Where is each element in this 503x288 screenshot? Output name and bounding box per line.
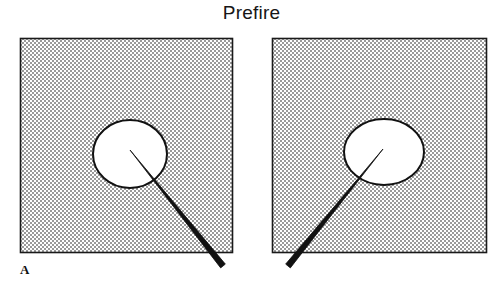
right-tissue-panel bbox=[273, 39, 487, 268]
panel-label-a: A bbox=[20, 262, 29, 278]
figure-canvas bbox=[0, 0, 503, 288]
figure-root: Prefire A bbox=[0, 0, 503, 288]
right-target-circle bbox=[344, 119, 424, 185]
left-tissue-panel bbox=[21, 39, 233, 268]
left-target-circle bbox=[93, 120, 167, 188]
